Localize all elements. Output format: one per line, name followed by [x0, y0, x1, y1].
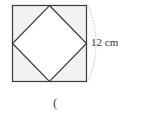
- answer-parenthesis: (: [53, 95, 57, 111]
- square-diagram: [0, 0, 149, 117]
- side-length-label: 12 cm: [91, 36, 118, 48]
